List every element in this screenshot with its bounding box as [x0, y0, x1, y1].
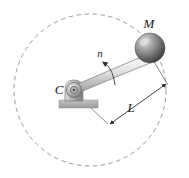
mechanics-diagram: M C n L — [0, 0, 189, 178]
diagram-canvas: M C n L — [0, 0, 189, 178]
mass-sphere — [135, 33, 165, 63]
rotation-speed-label: n — [97, 47, 103, 59]
mass-label: M — [143, 16, 156, 31]
pivot-label: C — [55, 82, 64, 97]
length-label: L — [126, 100, 134, 115]
length-dimension-line — [110, 84, 166, 124]
rotation-arrow-head — [102, 62, 108, 68]
pivot-center-dot — [73, 89, 76, 92]
